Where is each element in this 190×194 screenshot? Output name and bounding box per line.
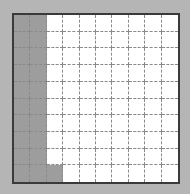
grid-cell bbox=[145, 165, 161, 182]
grid-cell bbox=[145, 115, 161, 132]
grid-cell bbox=[80, 15, 96, 32]
grid-cell bbox=[47, 65, 63, 82]
grid-cell bbox=[112, 65, 128, 82]
grid-cell bbox=[112, 48, 128, 65]
grid-cell-shaded bbox=[30, 15, 46, 32]
grid-cell bbox=[162, 165, 178, 182]
grid-cell bbox=[96, 82, 112, 99]
grid-cell bbox=[80, 149, 96, 166]
grid-cell bbox=[96, 65, 112, 82]
grid-cell bbox=[145, 48, 161, 65]
grid-cell bbox=[162, 32, 178, 49]
grid-cell bbox=[145, 132, 161, 149]
grid-cell-shaded bbox=[30, 132, 46, 149]
grid-cell-shaded bbox=[14, 99, 30, 116]
grid-cell bbox=[145, 15, 161, 32]
grid-cell-shaded bbox=[30, 48, 46, 65]
grid-cell-shaded bbox=[47, 165, 63, 182]
grid-cell bbox=[112, 32, 128, 49]
grid-cell bbox=[145, 149, 161, 166]
grid-cell bbox=[47, 149, 63, 166]
grid-cell bbox=[80, 48, 96, 65]
grid-cell-shaded bbox=[14, 48, 30, 65]
grid-cell-shaded bbox=[14, 32, 30, 49]
grid-cell bbox=[96, 132, 112, 149]
grid-cell bbox=[112, 115, 128, 132]
grid-cell bbox=[129, 132, 145, 149]
grid-cell bbox=[80, 82, 96, 99]
grid-cell bbox=[112, 15, 128, 32]
grid-cell-shaded bbox=[30, 115, 46, 132]
grid-cell-shaded bbox=[30, 165, 46, 182]
grid-cell bbox=[80, 32, 96, 49]
grid-cell bbox=[162, 132, 178, 149]
grid-cell bbox=[162, 115, 178, 132]
grid-cell bbox=[129, 165, 145, 182]
grid-cell bbox=[47, 15, 63, 32]
grid-cell bbox=[129, 149, 145, 166]
grid-cell bbox=[47, 32, 63, 49]
grid-cell bbox=[112, 165, 128, 182]
grid-cell-shaded bbox=[30, 99, 46, 116]
grid-cell bbox=[129, 99, 145, 116]
grid-cell-shaded bbox=[14, 65, 30, 82]
grid-cell bbox=[145, 99, 161, 116]
grid-cell bbox=[162, 149, 178, 166]
grid-cell-shaded bbox=[14, 115, 30, 132]
grid-cell bbox=[63, 15, 79, 32]
grid-cell bbox=[112, 132, 128, 149]
grid-cell bbox=[47, 99, 63, 116]
grid-cell bbox=[129, 48, 145, 65]
grid-cell bbox=[145, 32, 161, 49]
grid-cell-shaded bbox=[14, 149, 30, 166]
grid-cell bbox=[47, 132, 63, 149]
grid-cell bbox=[63, 99, 79, 116]
grid-cell bbox=[145, 65, 161, 82]
grid-cell bbox=[162, 82, 178, 99]
grid-cell bbox=[96, 165, 112, 182]
grid-cell bbox=[162, 65, 178, 82]
grid-cell bbox=[63, 48, 79, 65]
grid-cell bbox=[96, 48, 112, 65]
grid-cell bbox=[129, 32, 145, 49]
grid-cell bbox=[96, 149, 112, 166]
grid-cell-shaded bbox=[14, 82, 30, 99]
grid-cell bbox=[80, 132, 96, 149]
grid-cell bbox=[80, 99, 96, 116]
grid-cell bbox=[129, 15, 145, 32]
grid-cell bbox=[96, 99, 112, 116]
hundred-grid-frame bbox=[12, 13, 180, 184]
grid-cell bbox=[96, 32, 112, 49]
grid-cell-shaded bbox=[30, 65, 46, 82]
grid-cell bbox=[63, 82, 79, 99]
grid-cell bbox=[112, 99, 128, 116]
grid-cell bbox=[80, 65, 96, 82]
grid-cell bbox=[112, 149, 128, 166]
grid-cell bbox=[162, 15, 178, 32]
grid-cell bbox=[129, 82, 145, 99]
grid-cell-shaded bbox=[14, 15, 30, 32]
grid-cell bbox=[112, 82, 128, 99]
hundred-grid bbox=[14, 15, 178, 182]
grid-cell bbox=[47, 82, 63, 99]
grid-cell bbox=[80, 165, 96, 182]
grid-cell bbox=[63, 115, 79, 132]
grid-cell-shaded bbox=[14, 132, 30, 149]
grid-cell bbox=[96, 15, 112, 32]
grid-cell bbox=[63, 32, 79, 49]
grid-cell bbox=[80, 115, 96, 132]
grid-cell bbox=[63, 165, 79, 182]
grid-cell bbox=[63, 132, 79, 149]
grid-cell bbox=[145, 82, 161, 99]
grid-cell bbox=[63, 65, 79, 82]
grid-cell bbox=[129, 65, 145, 82]
grid-cell bbox=[47, 48, 63, 65]
grid-cell bbox=[162, 48, 178, 65]
grid-cell bbox=[129, 115, 145, 132]
grid-cell-shaded bbox=[30, 149, 46, 166]
grid-cell bbox=[63, 149, 79, 166]
grid-cell-shaded bbox=[30, 32, 46, 49]
grid-cell bbox=[47, 115, 63, 132]
grid-cell bbox=[96, 115, 112, 132]
grid-cell-shaded bbox=[30, 82, 46, 99]
